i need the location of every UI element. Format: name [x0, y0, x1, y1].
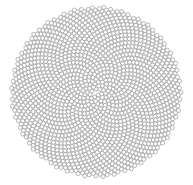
seed-circle [178, 97, 182, 101]
seed-circle [120, 9, 124, 13]
seed-circle [13, 68, 17, 72]
seed-circle [36, 64, 40, 68]
seed-circle [111, 104, 115, 108]
seed-circle [16, 57, 20, 61]
seed-circle [171, 121, 175, 125]
seed-circle [169, 51, 173, 55]
seed-circle [40, 63, 44, 67]
seed-circle [166, 131, 170, 135]
seed-circle [123, 169, 127, 173]
seed-circle [91, 6, 95, 10]
seed-circle [155, 34, 159, 38]
seed-circle [27, 141, 31, 145]
seed-circle [18, 125, 22, 129]
seed-circle [177, 109, 181, 113]
seed-circle [148, 154, 152, 158]
seed-circle [21, 132, 25, 136]
seed-circle [16, 119, 20, 123]
seed-circle [171, 58, 175, 62]
seed-circle [13, 73, 17, 77]
seed-circle [126, 13, 130, 17]
seed-circle [116, 170, 120, 174]
seed-circle [59, 106, 63, 110]
seed-circle [142, 22, 146, 26]
seed-circle [142, 126, 146, 130]
seed-circle [44, 56, 48, 60]
seed-circle [24, 46, 28, 50]
seed-circle [112, 172, 116, 176]
seed-circle [70, 169, 74, 173]
seed-circle [119, 119, 123, 123]
seed-circle [146, 122, 150, 126]
seed-circle [106, 70, 110, 74]
seed-circle [155, 146, 159, 150]
seed-circle [35, 149, 39, 153]
seed-circle [75, 57, 79, 61]
seed-circle [32, 32, 36, 36]
seed-circle [149, 111, 153, 115]
seed-circle [121, 65, 125, 69]
seed-circle [127, 41, 131, 45]
seed-circle [16, 62, 20, 66]
seed-circle [24, 135, 28, 139]
seed-circle [75, 76, 79, 80]
seed-circle [60, 103, 64, 107]
seed-circle [146, 119, 150, 123]
seed-circle [178, 79, 182, 83]
seed-circle [87, 78, 91, 82]
seed-circle [59, 15, 63, 19]
seed-circle [126, 68, 130, 72]
seed-circle [14, 115, 18, 119]
seed-circle [69, 11, 73, 15]
seed-circle [115, 120, 119, 124]
seed-circle [79, 7, 83, 11]
seed-circle [139, 161, 143, 165]
seed-circle [101, 175, 105, 179]
seed-circle [170, 126, 174, 130]
seed-circle [48, 49, 52, 53]
seed-circle [133, 164, 137, 168]
seed-circle [146, 23, 150, 27]
seed-circle [127, 37, 131, 41]
seed-circle [151, 28, 155, 32]
seed-circle [124, 37, 128, 41]
seed-circle [105, 82, 109, 86]
seed-circle [66, 113, 70, 117]
seed-circle [116, 34, 120, 38]
seed-circle [78, 57, 82, 61]
seed-circle [40, 155, 44, 159]
seed-circle [165, 136, 169, 140]
seed-circle [48, 53, 52, 57]
seed-circle [13, 108, 17, 112]
seed-circle [49, 45, 53, 49]
seed-circle [72, 8, 76, 12]
seed-circle [174, 61, 178, 65]
seed-circle [125, 72, 129, 76]
seed-circle [130, 167, 134, 171]
seed-circle [142, 130, 146, 134]
seed-circle [115, 10, 119, 14]
seed-circle [63, 141, 67, 145]
seed-circle [11, 79, 15, 83]
seed-circle [25, 42, 29, 46]
seed-circle [43, 24, 47, 28]
seed-circle [37, 67, 41, 71]
seed-circle [52, 137, 56, 141]
seed-circle [40, 60, 44, 64]
seed-circle [67, 149, 71, 153]
seed-circle [66, 141, 70, 145]
seed-circle [94, 174, 98, 178]
seed-circle [83, 174, 87, 178]
seed-circle [177, 86, 181, 90]
seed-circle [174, 115, 178, 119]
seed-circle [138, 129, 142, 133]
seed-circle [138, 132, 142, 136]
seed-circle [131, 41, 135, 45]
seed-circle [46, 21, 50, 25]
seed-circle [105, 173, 109, 177]
seed-circle [62, 12, 66, 16]
seed-circle [135, 41, 139, 45]
seed-circle [59, 141, 63, 145]
seed-circle [120, 37, 124, 41]
seed-circle [87, 173, 91, 177]
